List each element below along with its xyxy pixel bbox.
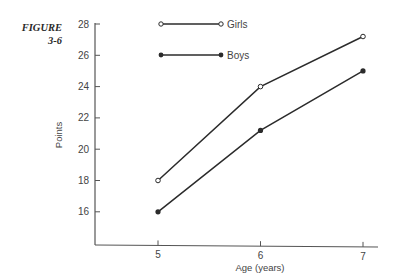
filled-circle-marker-icon	[219, 53, 224, 58]
series-girls	[156, 34, 366, 183]
legend-item-boys: Boys	[159, 50, 250, 61]
series-boys	[155, 68, 365, 214]
open-circle-marker-icon	[258, 84, 263, 89]
open-circle-marker-icon	[219, 22, 223, 26]
y-ticks: 16182022242628	[78, 19, 100, 218]
filled-circle-marker-icon	[258, 128, 263, 133]
open-circle-marker-icon	[159, 22, 163, 26]
y-axis-title: Points	[53, 122, 64, 149]
series-line	[158, 71, 363, 212]
y-tick-label: 26	[78, 50, 90, 61]
series-line	[158, 37, 363, 181]
legend-item-girls: Girls	[159, 19, 248, 30]
x-tick-label: 5	[155, 249, 161, 260]
legend-label-boys: Boys	[227, 50, 249, 61]
open-circle-marker-icon	[156, 178, 161, 183]
series-group	[155, 34, 365, 214]
y-tick-label: 22	[78, 112, 90, 123]
x-axis-title: Age (years)	[235, 262, 284, 273]
filled-circle-marker-icon	[155, 209, 160, 214]
x-tick-label: 6	[258, 250, 264, 261]
x-axis	[95, 245, 378, 247]
filled-circle-marker-icon	[159, 53, 164, 58]
legend-label-girls: Girls	[227, 19, 248, 30]
line-chart: 16182022242628 567 Points Age (years) Gi…	[0, 0, 393, 276]
y-tick-label: 20	[78, 144, 90, 155]
filled-circle-marker-icon	[360, 68, 365, 73]
y-tick-label: 24	[78, 81, 90, 92]
open-circle-marker-icon	[361, 34, 366, 39]
x-ticks: 567	[155, 240, 366, 261]
y-tick-label: 16	[78, 206, 90, 217]
legend: Girls Boys	[159, 19, 250, 61]
x-tick-label: 7	[360, 251, 366, 262]
y-tick-label: 28	[78, 19, 90, 30]
y-tick-label: 18	[78, 175, 90, 186]
